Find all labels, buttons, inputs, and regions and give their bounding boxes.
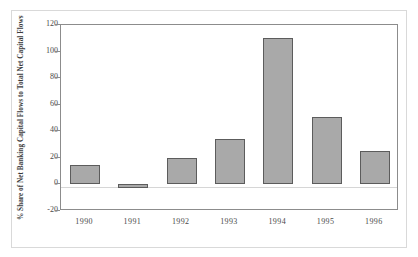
y-axis-tick-label: 0 — [0, 178, 58, 188]
zero-baseline — [61, 187, 397, 188]
y-axis-tick-label: 20 — [0, 152, 58, 162]
bar-1995 — [312, 117, 342, 185]
chart-page: % Share of Net Banking Capital Flows to … — [0, 0, 418, 257]
bar-1991 — [118, 184, 148, 188]
bar-1993 — [215, 139, 245, 184]
x-axis-tick-label: 1992 — [157, 216, 205, 228]
y-axis-tick-label: -20 — [0, 205, 58, 215]
x-axis-tick-label: 1996 — [350, 216, 398, 228]
x-axis-tick-label: 1995 — [301, 216, 349, 228]
x-axis-tick-label: 1993 — [205, 216, 253, 228]
y-axis-tick-label: 100 — [0, 46, 58, 56]
y-axis-tick-label: 60 — [0, 99, 58, 109]
bar-1992 — [167, 158, 197, 185]
bar-1994 — [263, 38, 293, 184]
bar-1996 — [360, 151, 390, 184]
plot-area — [60, 24, 398, 210]
x-axis-tick-label: 1994 — [253, 216, 301, 228]
y-axis-tick-label: 40 — [0, 125, 58, 135]
y-axis-tick-label: 120 — [0, 19, 58, 29]
y-axis-tick-mark — [55, 210, 60, 211]
y-axis-tick-label: 80 — [0, 72, 58, 82]
bar-1990 — [70, 165, 100, 185]
x-axis-tick-label: 1991 — [108, 216, 156, 228]
x-axis-tick-label: 1990 — [60, 216, 108, 228]
